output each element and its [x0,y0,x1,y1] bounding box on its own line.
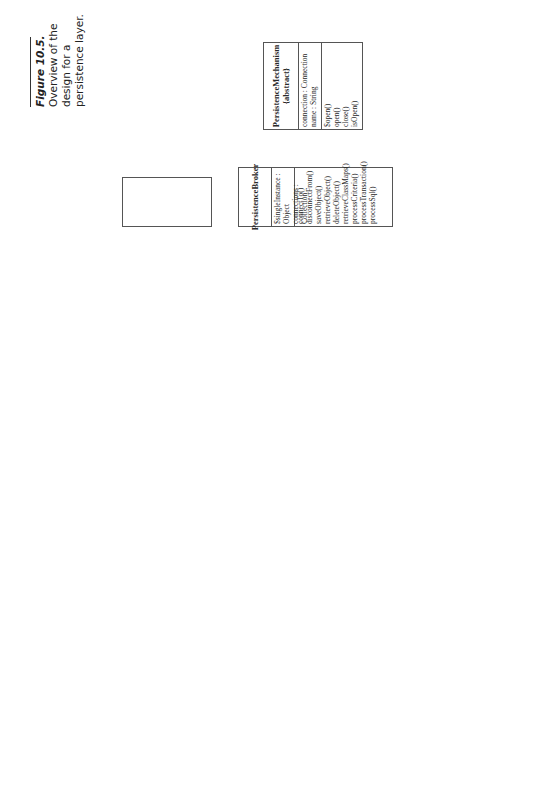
class-methods: connectTo() disconnectFrom() saveObject(… [295,168,378,226]
method: $open() [323,45,332,127]
method: saveObject() [314,170,323,224]
attribute: name : String [309,45,318,127]
class-name: PersistenceBroker [239,168,272,226]
book-page-rotated: Figure 10.5. Overview of the design for … [0,0,535,812]
method: processSql() [368,170,377,224]
attribute: connection : Connection [300,45,309,127]
method: deleteObject() [332,170,341,224]
method: retrieveObject() [323,170,332,224]
caption-line-3: persistence layer. [73,14,86,107]
method: processCriteria() [350,170,359,224]
method: open() [332,45,341,127]
method: isOpen() [350,45,359,127]
method: connectTo() [296,170,305,224]
attribute: $singleInstance : Object [273,170,291,224]
class-attributes: connection : Connection name : String [299,43,322,129]
class-methods: $open() open() close() isOpen() [322,43,360,129]
class-persistence-broker[interactable]: PersistenceBroker $singleInstance : Obje… [238,167,393,227]
class-attributes: $singleInstance : Object connections : C… [272,168,295,226]
class-classmap[interactable] [122,177,212,227]
class-name: PersistenceMechanism {abstract} [264,43,299,129]
method: processTransaction() [359,170,368,224]
caption-line-1: Overview of the [47,14,60,107]
figure-caption: Figure 10.5. Overview of the design for … [34,14,86,107]
caption-rule [30,37,31,107]
caption-line-2: design for a [60,14,73,107]
figure-number: Figure 10.5. [34,14,47,107]
method: close() [341,45,350,127]
method: disconnectFrom() [305,170,314,224]
method: retrieveClassMaps() [341,170,350,224]
class-persistence-mechanism[interactable]: PersistenceMechanism {abstract} connecti… [263,42,363,130]
